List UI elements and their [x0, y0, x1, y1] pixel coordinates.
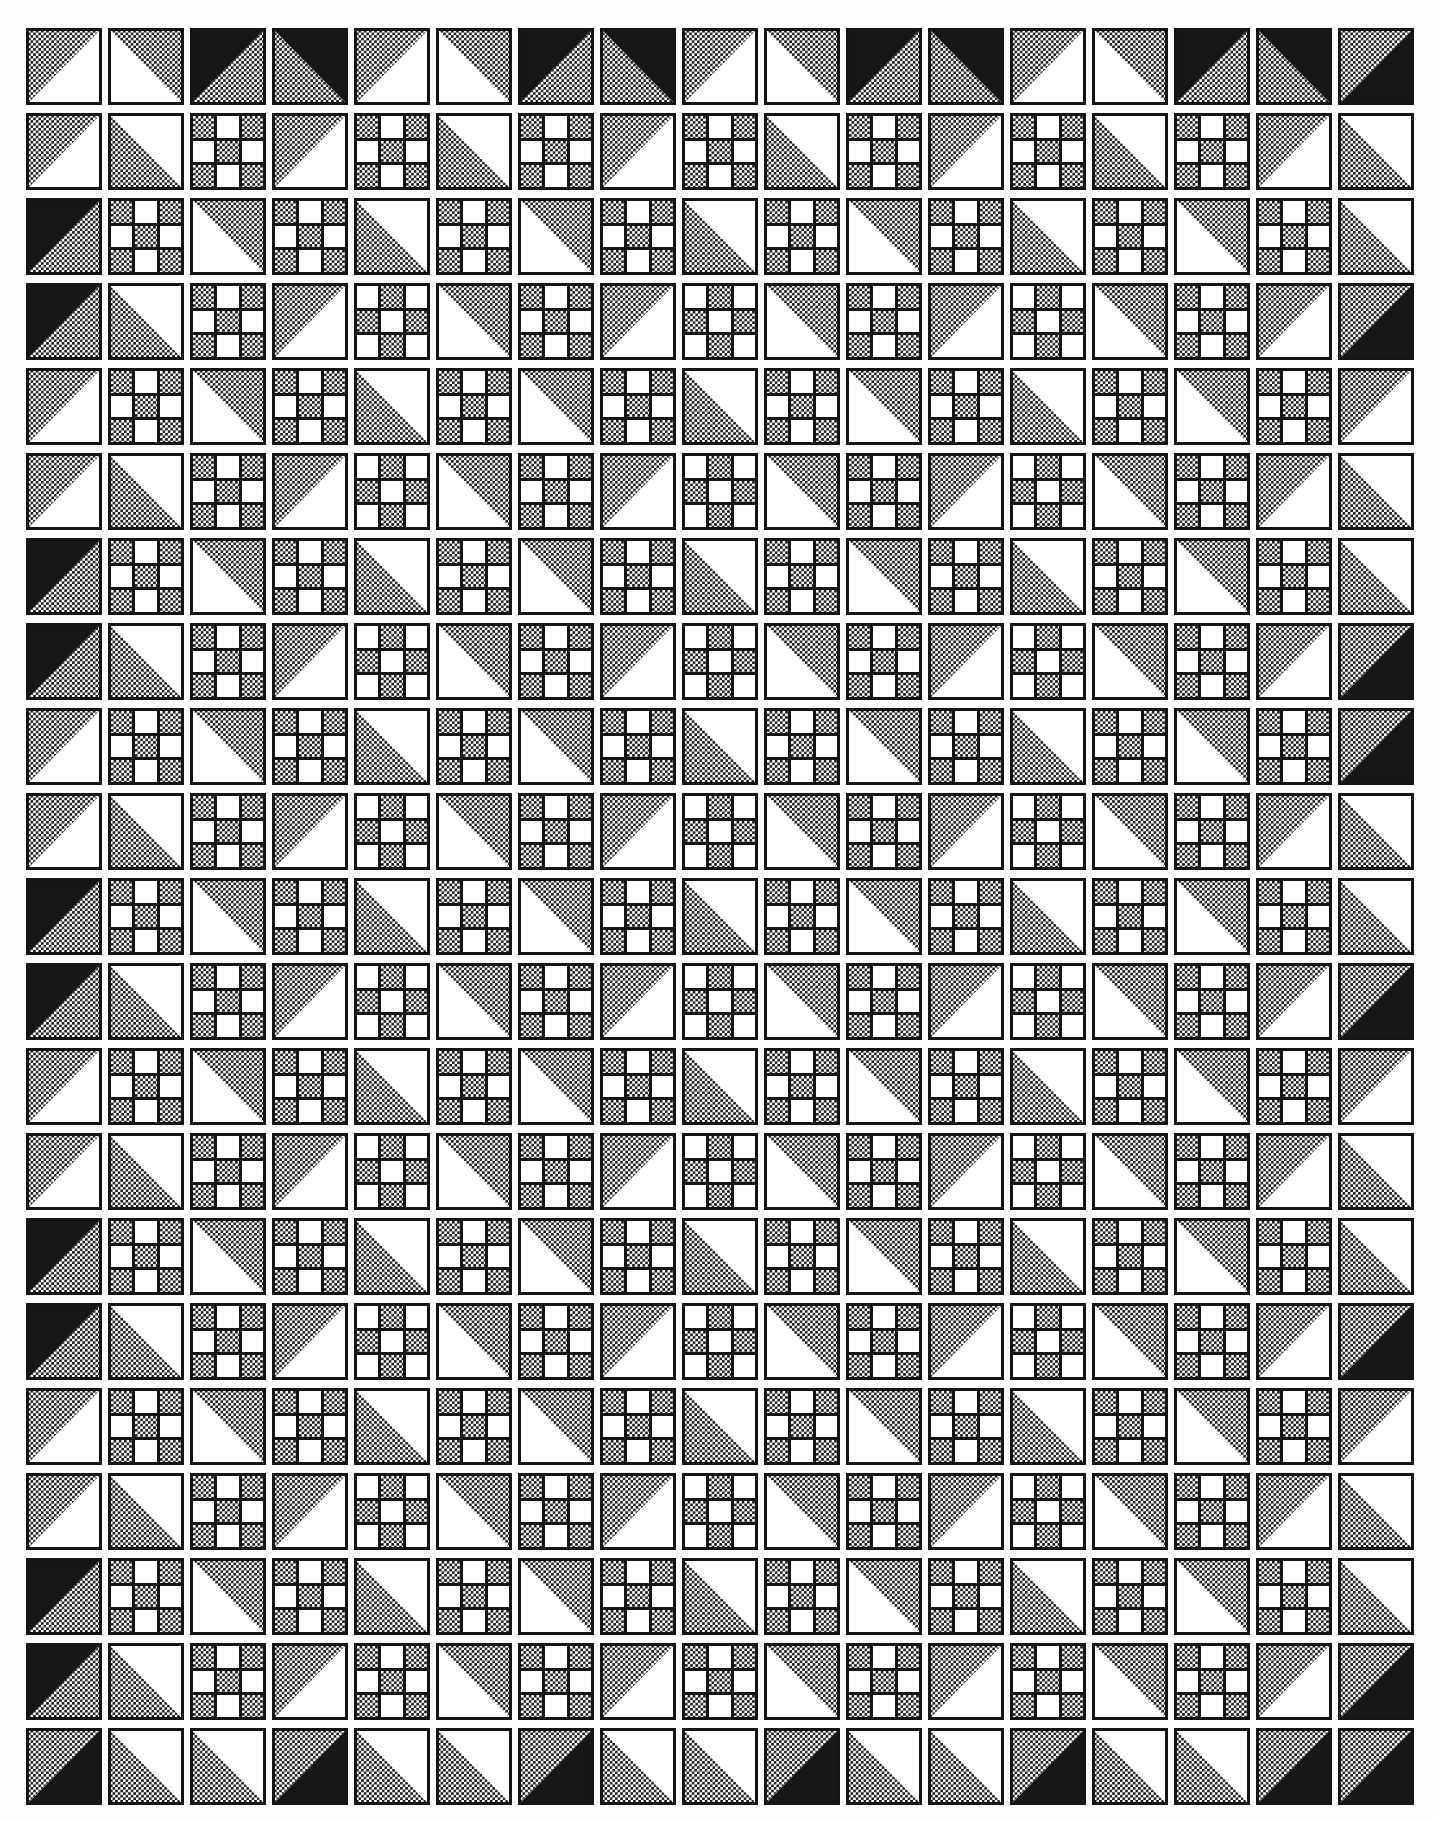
- ninepatch-patch: [545, 1331, 566, 1353]
- ninepatch-patch: [685, 1525, 706, 1547]
- ninepatch-block: [518, 1473, 594, 1550]
- ninepatch-patch: [1037, 481, 1058, 503]
- triangle-block: [764, 283, 840, 360]
- ninepatch-patch: [439, 1416, 460, 1438]
- ninepatch-patch: [299, 590, 320, 612]
- ninepatch-patch: [1062, 141, 1083, 163]
- triangle-block: [354, 1388, 430, 1465]
- ninepatch-patch: [1283, 250, 1304, 272]
- ninepatch-patch: [1095, 1270, 1116, 1292]
- ninepatch-patch: [111, 1586, 132, 1608]
- triangle-block: [846, 1388, 922, 1465]
- triangle-block: [600, 1728, 676, 1805]
- ninepatch-patch: [709, 626, 730, 648]
- triangle-block: [1256, 1303, 1332, 1380]
- ninepatch-block: [1174, 1473, 1250, 1550]
- ninepatch-patch: [849, 1525, 870, 1547]
- ninepatch-patch: [111, 226, 132, 248]
- ninepatch-patch: [603, 1586, 624, 1608]
- ninepatch-patch: [767, 420, 788, 442]
- triangle-block: [26, 963, 102, 1040]
- ninepatch-patch: [1062, 1501, 1083, 1523]
- ninepatch-patch: [1259, 590, 1280, 612]
- ninepatch-block: [600, 708, 676, 785]
- ninepatch-patch: [1144, 1391, 1165, 1413]
- ninepatch-patch: [488, 590, 509, 612]
- triangle-block: [26, 1558, 102, 1635]
- ninepatch-patch: [980, 711, 1001, 733]
- triangle-block: [928, 623, 1004, 700]
- ninepatch-patch: [193, 311, 214, 333]
- ninepatch-patch: [463, 1561, 484, 1583]
- ninepatch-patch: [1013, 1331, 1034, 1353]
- ninepatch-block: [272, 198, 348, 275]
- ninepatch-patch: [217, 991, 238, 1013]
- ninepatch-patch: [439, 881, 460, 903]
- ninepatch-patch: [1037, 1525, 1058, 1547]
- ninepatch-patch: [357, 845, 378, 867]
- ninepatch-patch: [685, 651, 706, 673]
- ninepatch-patch: [242, 1671, 263, 1693]
- triangle-block: [272, 453, 348, 530]
- ninepatch-patch: [1308, 760, 1329, 782]
- ninepatch-patch: [931, 1221, 952, 1243]
- ninepatch-patch: [1144, 1051, 1165, 1073]
- triangle-block: [600, 283, 676, 360]
- ninepatch-patch: [873, 286, 894, 308]
- triangle-block: [26, 1218, 102, 1295]
- ninepatch-patch: [1308, 906, 1329, 928]
- ninepatch-patch: [521, 1306, 542, 1328]
- triangle-block: [1174, 708, 1250, 785]
- ninepatch-patch: [111, 1561, 132, 1583]
- triangle-block: [1338, 793, 1414, 870]
- ninepatch-patch: [1095, 881, 1116, 903]
- ninepatch-patch: [1283, 1561, 1304, 1583]
- ninepatch-patch: [324, 906, 345, 928]
- ninepatch-patch: [135, 1246, 156, 1268]
- ninepatch-patch: [1062, 796, 1083, 818]
- ninepatch-block: [928, 198, 1004, 275]
- ninepatch-patch: [734, 1355, 755, 1377]
- ninepatch-patch: [931, 371, 952, 393]
- triangle-block: [682, 538, 758, 615]
- ninepatch-patch: [1095, 226, 1116, 248]
- ninepatch-patch: [1119, 1586, 1140, 1608]
- triangle-block: [518, 368, 594, 445]
- ninepatch-block: [846, 1473, 922, 1550]
- ninepatch-patch: [324, 590, 345, 612]
- ninepatch-patch: [1308, 1051, 1329, 1073]
- triangle-block: [1092, 453, 1168, 530]
- ninepatch-patch: [217, 1355, 238, 1377]
- ninepatch-patch: [603, 590, 624, 612]
- ninepatch-patch: [791, 566, 812, 588]
- ninepatch-patch: [357, 286, 378, 308]
- ninepatch-patch: [160, 1610, 181, 1632]
- ninepatch-patch: [1177, 116, 1198, 138]
- ninepatch-block: [190, 113, 266, 190]
- ninepatch-block: [108, 1558, 184, 1635]
- ninepatch-patch: [1201, 1331, 1222, 1353]
- ninepatch-patch: [381, 1015, 402, 1037]
- ninepatch-patch: [381, 796, 402, 818]
- ninepatch-patch: [1062, 286, 1083, 308]
- ninepatch-patch: [324, 1100, 345, 1122]
- quilt-block-grid: [26, 28, 1412, 1794]
- ninepatch-patch: [1062, 1185, 1083, 1207]
- ninepatch-patch: [955, 711, 976, 733]
- ninepatch-patch: [816, 1246, 837, 1268]
- triangle-block: [1092, 963, 1168, 1040]
- triangle-block: [1338, 453, 1414, 530]
- ninepatch-patch: [873, 1161, 894, 1183]
- ninepatch-patch: [545, 456, 566, 478]
- ninepatch-patch: [242, 991, 263, 1013]
- ninepatch-patch: [1226, 1331, 1247, 1353]
- triangle-block: [436, 1643, 512, 1720]
- ninepatch-patch: [1226, 675, 1247, 697]
- ninepatch-patch: [1119, 1391, 1140, 1413]
- ninepatch-patch: [1062, 1331, 1083, 1353]
- ninepatch-block: [1174, 963, 1250, 1040]
- ninepatch-patch: [873, 311, 894, 333]
- ninepatch-block: [108, 708, 184, 785]
- ninepatch-patch: [1037, 966, 1058, 988]
- ninepatch-block: [600, 1388, 676, 1465]
